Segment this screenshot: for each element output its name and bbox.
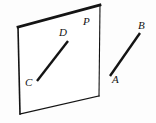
label-C: C [25,77,32,88]
segment-AB-line [110,33,140,76]
label-D: D [59,27,67,38]
label-P: P [83,16,90,27]
figure-canvas [0,0,156,123]
geometry-figure: P D C B A [0,0,156,123]
label-A: A [112,74,119,85]
label-B: B [138,20,145,31]
segment-AB [110,33,140,76]
